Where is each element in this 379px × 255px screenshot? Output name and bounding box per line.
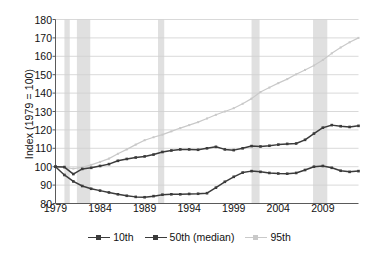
series-marker (277, 143, 280, 146)
x-tick-label: 1979 (44, 202, 67, 214)
series-marker (197, 148, 200, 151)
series-marker (357, 125, 360, 128)
legend-label: 50th (median) (170, 231, 235, 243)
x-axis-tick-labels: 1979198419891994199920042009 (0, 202, 379, 218)
series-marker (179, 127, 181, 129)
series-marker (348, 126, 351, 129)
series-marker (197, 121, 199, 123)
series-marker (224, 111, 226, 113)
series-marker (304, 69, 306, 71)
series-marker (188, 148, 191, 151)
series-marker (152, 195, 155, 198)
series-marker (304, 139, 307, 142)
series-marker (286, 172, 289, 175)
series-marker (224, 148, 227, 151)
series-marker (295, 172, 298, 175)
series-marker (232, 149, 235, 152)
series-marker (143, 196, 146, 199)
series-marker (72, 173, 75, 176)
series-marker (268, 144, 271, 147)
series-marker (117, 193, 120, 196)
series-marker (206, 117, 208, 119)
series-marker (215, 114, 217, 116)
legend-label: 95th (270, 231, 290, 243)
series-marker (295, 142, 298, 145)
chart-figure: Index (1979 = 100) 809010011012013014015… (0, 0, 379, 255)
series-marker (170, 193, 173, 196)
series-marker (322, 59, 324, 61)
x-tick-label: 1999 (222, 202, 245, 214)
series-marker (295, 73, 297, 75)
series-marker (108, 191, 111, 194)
series-marker (54, 165, 57, 168)
series-marker (277, 82, 279, 84)
series-marker (313, 132, 316, 135)
series-marker (339, 125, 342, 128)
series-marker (241, 147, 244, 150)
series-marker (179, 193, 182, 196)
series-marker (357, 170, 360, 173)
series-marker (170, 149, 173, 152)
legend-swatch-icon (245, 233, 267, 242)
chart-legend: 10th50th (median)95th (0, 229, 379, 245)
series-marker (143, 155, 146, 158)
series-marker (161, 193, 164, 196)
series-marker (322, 165, 325, 168)
series-marker (330, 167, 333, 170)
series-marker (63, 174, 66, 177)
series-marker (170, 130, 172, 132)
series-marker (259, 91, 261, 93)
series-marker (259, 145, 262, 148)
series-marker (81, 168, 84, 171)
series-marker (241, 171, 244, 174)
legend-item: 50th (median) (145, 231, 235, 243)
series-marker (215, 146, 218, 149)
series-marker (161, 134, 163, 136)
series-marker (72, 180, 75, 183)
series-marker (152, 153, 155, 156)
series-marker (322, 126, 325, 129)
series-marker (90, 167, 93, 170)
series-marker (153, 136, 155, 138)
series-marker (233, 107, 235, 109)
x-tick-label: 2004 (267, 202, 290, 214)
series-marker (232, 176, 235, 179)
series-marker (90, 187, 93, 190)
series-marker (268, 172, 271, 175)
x-tick-label: 1994 (177, 202, 200, 214)
series-marker (135, 144, 137, 146)
series-marker (250, 145, 253, 148)
series-marker (286, 78, 288, 80)
series-marker (125, 194, 128, 197)
series-marker (259, 171, 262, 174)
series-marker (99, 165, 102, 168)
series-marker (161, 151, 164, 154)
series-marker (179, 148, 182, 151)
series-marker (206, 192, 209, 195)
series-marker (358, 37, 360, 39)
series-marker (144, 139, 146, 141)
series-marker (117, 153, 119, 155)
series-marker (126, 148, 128, 150)
series-marker (330, 124, 333, 127)
series-marker (188, 124, 190, 126)
series-marker (63, 166, 66, 169)
legend-swatch-icon (145, 233, 167, 242)
series-marker (331, 52, 333, 54)
x-tick-label: 1989 (133, 202, 156, 214)
series-marker (108, 158, 110, 160)
series-marker (313, 165, 316, 168)
series-marker (339, 169, 342, 172)
x-tick-label: 1984 (88, 202, 111, 214)
series-marker (304, 169, 307, 172)
series-marker (215, 186, 218, 189)
series-marker (90, 164, 92, 166)
series-marker (134, 156, 137, 159)
series-marker (117, 160, 120, 163)
x-tick-label: 2009 (311, 202, 334, 214)
series-marker (251, 98, 253, 100)
series-marker (188, 193, 191, 196)
series-marker (340, 46, 342, 48)
series-marker (134, 196, 137, 199)
series-marker (242, 103, 244, 105)
